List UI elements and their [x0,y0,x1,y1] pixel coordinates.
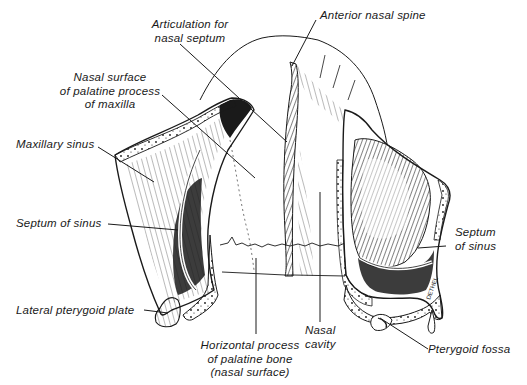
label-lateral-pterygoid-plate: Lateral pterygoid plate [16,304,134,318]
palatine-posterior-edge [222,272,345,276]
palatine-suture [220,237,345,247]
label-maxillary-sinus: Maxillary sinus [16,138,94,152]
septal-ridge [284,62,298,276]
maxilla-illustration: DETHEL [0,0,527,385]
label-septum-of-sinus-right: Septum of sinus [455,226,496,253]
label-anterior-nasal-spine: Anterior nasal spine [320,9,426,23]
label-septum-of-sinus-left: Septum of sinus [16,217,101,231]
label-articulation-nasal-septum: Articulation for nasal septum [100,18,280,45]
anatomy-figure: DETHEL [0,0,527,385]
label-pterygoid-fossa: Pterygoid fossa [428,343,510,357]
right-pterygoid-fossa [371,314,392,330]
label-nasal-cavity: Nasal cavity [305,324,336,351]
label-horizontal-process-palatine-bone: Horizontal process of palatine bone (nas… [180,339,320,380]
label-nasal-surface-palatine-process: Nasal surface of palatine process of max… [50,71,170,112]
